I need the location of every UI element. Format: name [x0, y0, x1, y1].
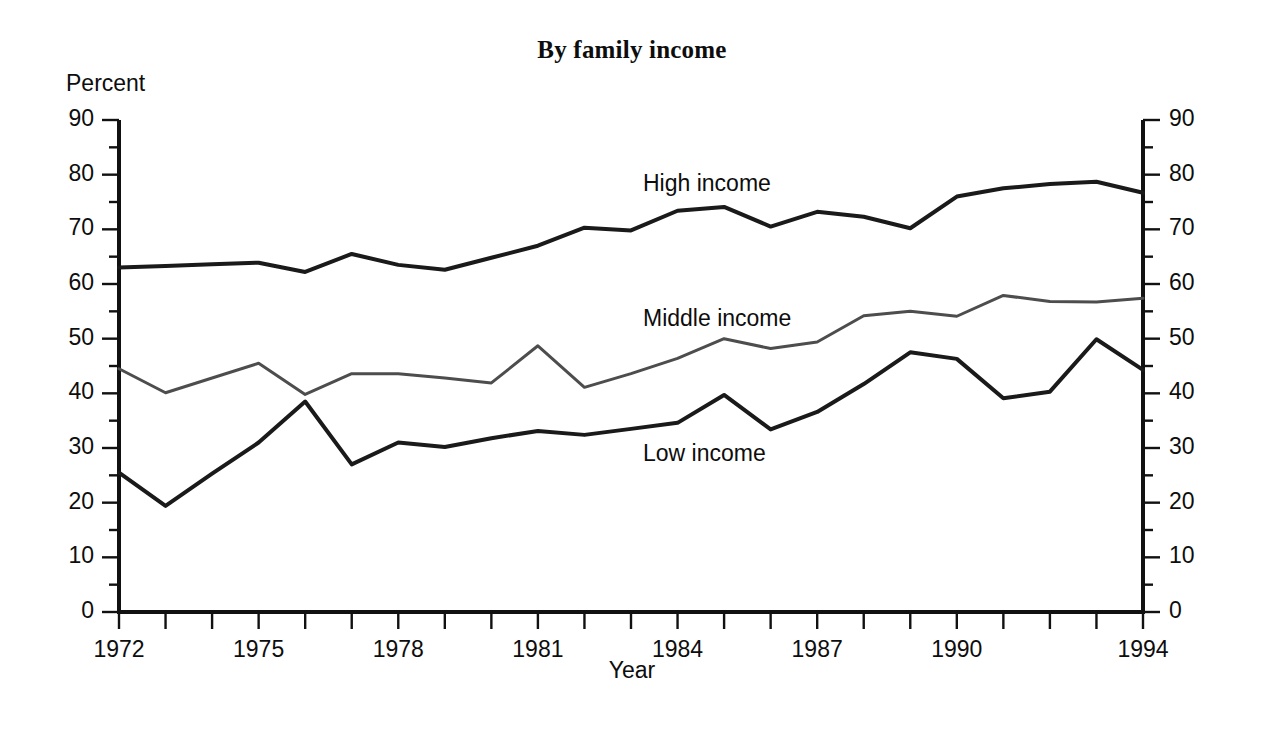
y-tick-label-left: 90 [46, 105, 94, 132]
y-tick-label-right: 30 [1169, 433, 1221, 460]
y-tick-label-right: 70 [1169, 214, 1221, 241]
y-tick-label-right: 10 [1169, 542, 1221, 569]
series-group [119, 182, 1143, 506]
y-tick-label-left: 60 [46, 269, 94, 296]
plot-area [0, 0, 1264, 732]
y-tick-label-left: 40 [46, 378, 94, 405]
chart-figure: By family income Percent 001010202030304… [0, 0, 1264, 732]
series-line-middle-income [119, 295, 1143, 394]
y-tick-label-right: 50 [1169, 324, 1221, 351]
y-tick-label-right: 0 [1169, 597, 1221, 624]
y-tick-label-right: 20 [1169, 488, 1221, 515]
series-line-high-income [119, 182, 1143, 272]
y-tick-label-left: 30 [46, 433, 94, 460]
series-line-low-income [119, 339, 1143, 506]
y-tick-label-right: 80 [1169, 160, 1221, 187]
x-axis-title: Year [0, 657, 1264, 684]
y-tick-label-right: 90 [1169, 105, 1221, 132]
y-tick-label-left: 70 [46, 214, 94, 241]
series-label-low-income: Low income [643, 440, 766, 467]
y-tick-label-left: 10 [46, 542, 94, 569]
y-tick-label-left: 50 [46, 324, 94, 351]
series-label-high-income: High income [643, 170, 771, 197]
y-tick-label-right: 40 [1169, 378, 1221, 405]
y-tick-label-left: 20 [46, 488, 94, 515]
y-tick-label-left: 0 [46, 597, 94, 624]
y-tick-label-right: 60 [1169, 269, 1221, 296]
y-tick-label-left: 80 [46, 160, 94, 187]
series-label-middle-income: Middle income [643, 305, 791, 332]
